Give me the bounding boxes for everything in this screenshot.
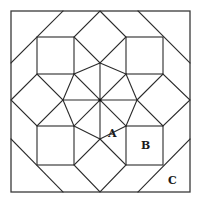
label-b: B — [141, 139, 150, 152]
label-c: C — [168, 174, 177, 187]
quilt-diagram: A B C — [0, 0, 203, 205]
center-point — [98, 98, 101, 101]
label-a: A — [107, 127, 117, 140]
